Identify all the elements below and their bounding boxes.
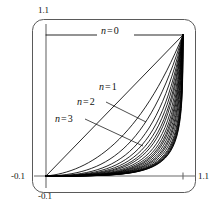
curve-label-n0-eq: = (106, 25, 114, 36)
leader-line-n3 (85, 119, 143, 146)
curve-label-n3: n=3 (55, 114, 73, 124)
leader-line-group (85, 102, 146, 146)
curve-label-n2-value: 2 (90, 96, 95, 107)
figure-container: n=0 n=1 n=2 n=3 1.1 -0.1 -0.1 1.1 (0, 0, 220, 216)
curve-label-n1-value: 1 (112, 81, 117, 92)
x-axis-max-label: 1.1 (198, 172, 209, 181)
x-axis-min-label: -0.1 (38, 192, 52, 201)
curve-label-n1: n=1 (99, 82, 117, 92)
leader-line-n2 (106, 102, 146, 122)
curve-label-n3-eq: = (60, 113, 68, 124)
curve-label-n3-value: 3 (68, 113, 73, 124)
curve-label-n2-eq: = (82, 96, 90, 107)
curve-label-n2: n=2 (77, 97, 95, 107)
y-axis-min-label: -0.1 (11, 172, 25, 181)
curve-label-n1-eq: = (104, 81, 112, 92)
curve-label-n0: n=0 (101, 26, 119, 36)
y-axis-max-label: 1.1 (38, 6, 49, 15)
curve-group (46, 35, 183, 176)
curve-label-n0-value: 0 (114, 25, 119, 36)
